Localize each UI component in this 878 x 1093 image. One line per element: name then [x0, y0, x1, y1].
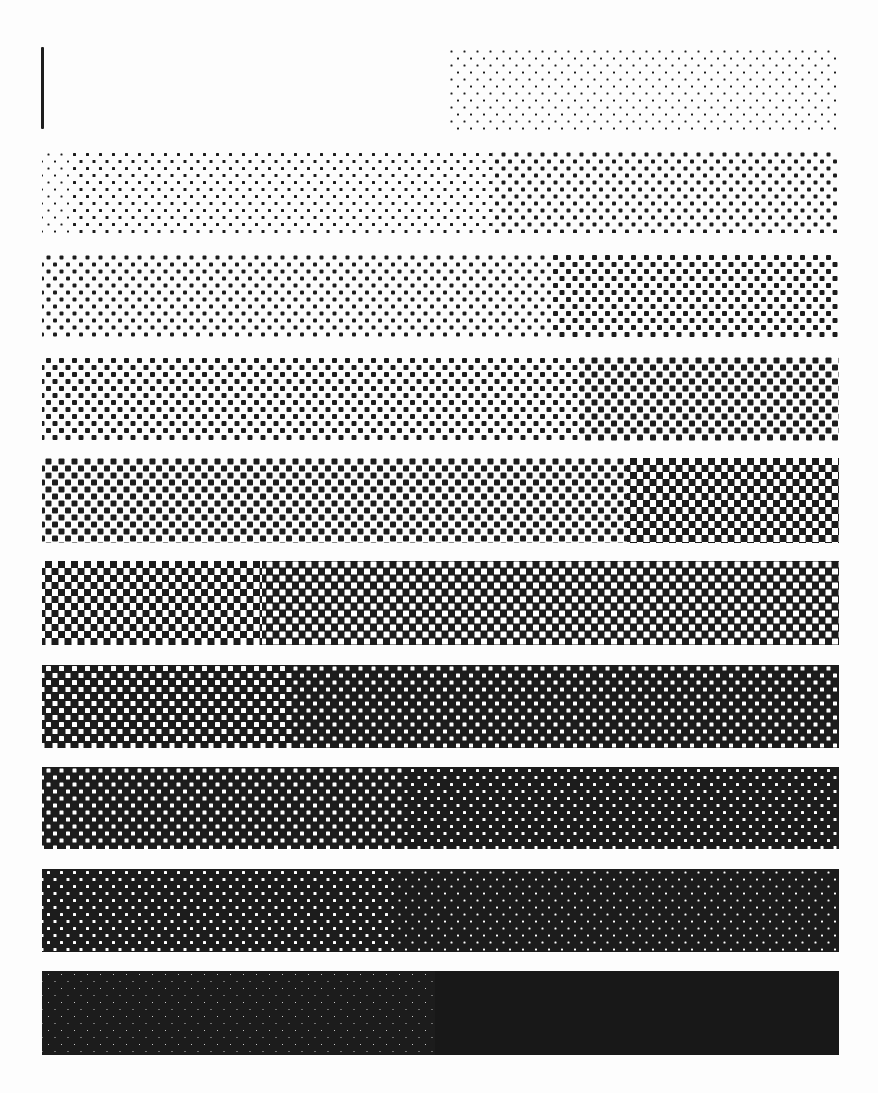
- tone-segment: [42, 869, 393, 952]
- tone-band-4: [42, 357, 839, 441]
- tone-band-2: [42, 151, 839, 233]
- tone-segment: [42, 254, 72, 338]
- tone-band-10: [42, 971, 839, 1055]
- tone-segment: [42, 665, 292, 748]
- tone-segment: [42, 767, 402, 849]
- tone-band-1: [42, 48, 839, 130]
- tone-segment: [42, 151, 72, 233]
- tone-segment: [42, 561, 262, 645]
- tone-segment: [580, 357, 839, 441]
- tone-segment: [42, 971, 435, 1055]
- tone-segment: [42, 48, 450, 130]
- tone-segment: [72, 151, 492, 233]
- tone-band-6: [42, 561, 839, 645]
- tone-band-5: [42, 458, 839, 543]
- tone-band-7: [42, 665, 839, 748]
- tone-segment: [402, 767, 839, 849]
- tone-band-3: [42, 254, 839, 338]
- tone-segment: [492, 151, 839, 233]
- tone-segment: [42, 357, 580, 441]
- tone-segment: [42, 458, 212, 543]
- tone-segment: [435, 971, 839, 1055]
- tone-segment: [552, 254, 839, 338]
- tone-segment: [212, 458, 627, 543]
- tone-segment: [292, 665, 839, 748]
- tone-segment: [450, 48, 839, 130]
- tone-segment: [393, 869, 839, 952]
- halftone-test-sheet: [0, 0, 878, 1093]
- tone-band-9: [42, 869, 839, 952]
- tone-band-8: [42, 767, 839, 849]
- tone-segment: [72, 254, 552, 338]
- tone-segment: [627, 458, 839, 543]
- tone-segment: [262, 561, 839, 645]
